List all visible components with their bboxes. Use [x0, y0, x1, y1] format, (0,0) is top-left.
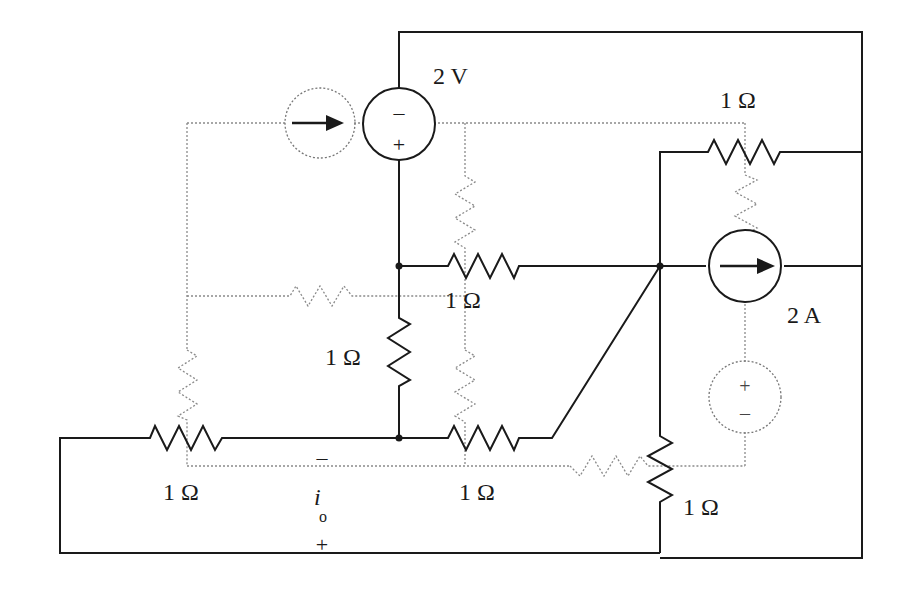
voltage-source-2v: – +	[363, 88, 435, 160]
label-r-bottom-left: 1 Ω	[163, 479, 199, 505]
label-r-bottom-middle: 1 Ω	[459, 479, 495, 505]
junction-node	[396, 435, 403, 442]
label-current-source: 2 A	[787, 302, 822, 328]
label-current-io: i	[314, 484, 321, 510]
label-r-middle-horizontal: 1 Ω	[445, 287, 481, 313]
vs-plus-sign: +	[393, 132, 405, 157]
label-r-middle-vertical: 1 Ω	[325, 344, 361, 370]
dual-vs-minus-sign: –	[739, 402, 751, 424]
label-r-bottom-right: 1 Ω	[683, 494, 719, 520]
io-minus-sign: –	[316, 445, 329, 470]
label-r-top-right: 1 Ω	[720, 87, 756, 113]
junction-node	[396, 263, 403, 270]
dual-vs-plus-sign: +	[739, 375, 750, 397]
label-current-io-subscript: o	[319, 508, 327, 525]
arrow-right-icon	[292, 115, 344, 131]
dual-circuit-overlay	[178, 88, 781, 476]
vs-minus-sign: –	[393, 100, 406, 125]
circuit-diagram: – + + – 2 V 1 Ω 1 Ω 2 A 1 Ω 1 Ω 1 Ω 1 Ω …	[0, 0, 920, 596]
current-source-2a	[709, 230, 781, 302]
label-voltage-source: 2 V	[433, 63, 469, 89]
io-plus-sign: +	[316, 532, 328, 557]
junction-node	[657, 263, 664, 270]
